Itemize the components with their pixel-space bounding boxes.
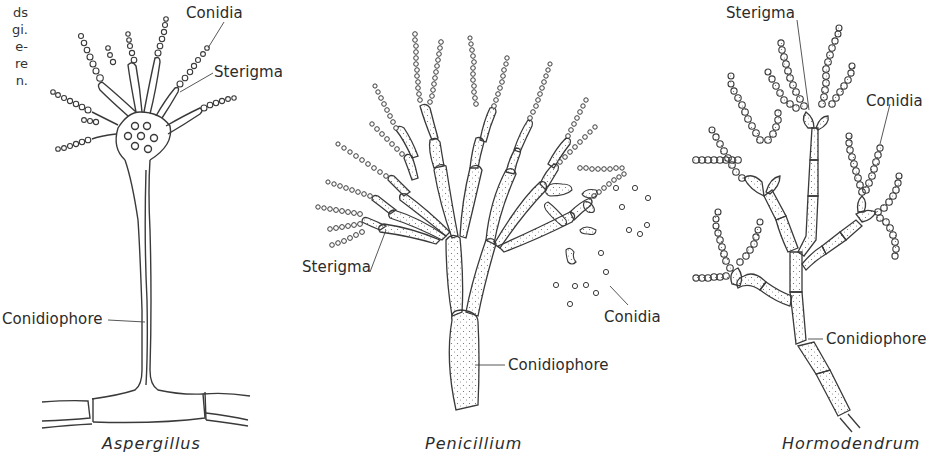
illustration-canvas <box>0 0 941 459</box>
caption-aspergillus: Aspergillus <box>102 434 201 453</box>
fungi-conidiophore-figure: ds gi. e- re n. <box>0 0 941 459</box>
caption-hormodendrum: Hormodendrum <box>782 434 920 453</box>
caption-penicillium: Penicillium <box>425 434 522 453</box>
aspergillus-drawing <box>42 58 250 429</box>
label-aspergillus-sterigma: Sterigma <box>214 63 283 81</box>
label-hormodendrum-sterigma: Sterigma <box>726 4 795 22</box>
label-hormodendrum-conidia: Conidia <box>866 92 923 110</box>
label-penicillium-sterigma: Sterigma <box>302 258 371 276</box>
hormodendrum-conidia-chains <box>693 25 902 281</box>
label-penicillium-conidia: Conidia <box>604 308 661 326</box>
aspergillus-conidia-chains <box>51 17 237 152</box>
label-aspergillus-conidia: Conidia <box>186 4 243 22</box>
label-aspergillus-conidiophore: Conidiophore <box>2 310 103 328</box>
label-hormodendrum-conidiophore: Conidiophore <box>826 330 927 348</box>
label-penicillium-conidiophore: Conidiophore <box>508 356 609 374</box>
